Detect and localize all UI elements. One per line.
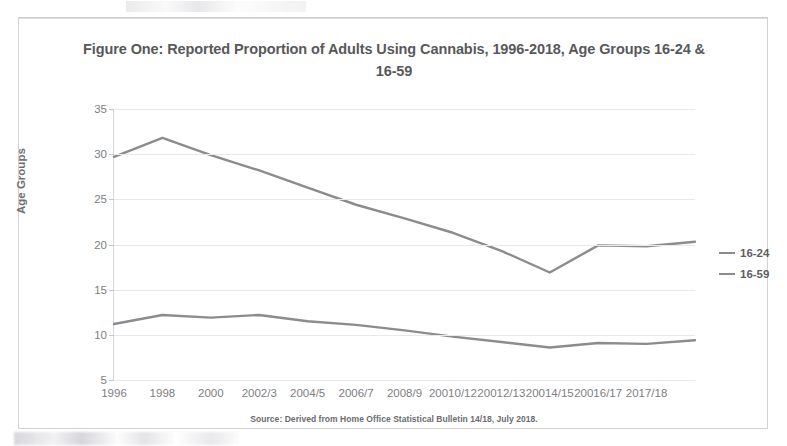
legend-line-icon	[719, 252, 735, 254]
gridline-15	[114, 290, 695, 291]
y-tick-label-5: 5	[77, 374, 107, 386]
y-tick-label-30: 30	[77, 148, 107, 160]
y-axis-tick-20	[109, 245, 114, 246]
gridline-35	[114, 109, 695, 110]
x-tick-label-3: 2002/3	[242, 387, 277, 399]
gridline-20	[114, 245, 695, 246]
series-line-16-24	[114, 138, 695, 273]
x-tick-label-5: 2006/7	[338, 387, 373, 399]
x-tick-label-10: 20016/17	[574, 387, 622, 399]
x-tick-label-0: 1996	[101, 387, 127, 399]
legend-label: 16-24	[740, 247, 769, 259]
legend-line-icon	[719, 273, 735, 275]
legend-label: 16-59	[740, 268, 769, 280]
gridline-30	[114, 154, 695, 155]
legend-item-16-59[interactable]: 16-59	[719, 263, 785, 284]
scan-artifact-top	[126, 1, 306, 12]
y-axis-tick-25	[109, 199, 114, 200]
y-axis-title: Age Groups	[15, 148, 27, 214]
y-tick-label-10: 10	[77, 329, 107, 341]
y-axis-tick-10	[109, 335, 114, 336]
chart-title: Figure One: Reported Proportion of Adult…	[79, 38, 709, 82]
source-caption: Source: Derived from Home Office Statist…	[79, 414, 709, 424]
x-tick-label-4: 2004/5	[290, 387, 325, 399]
y-axis-tick-30	[109, 154, 114, 155]
y-axis-tick-15	[109, 290, 114, 291]
scan-artifact-bottom	[14, 432, 239, 445]
x-tick-label-2: 2000	[198, 387, 224, 399]
plot-area	[114, 109, 695, 380]
x-tick-label-9: 20014/15	[526, 387, 574, 399]
x-tick-label-8: 20012/13	[477, 387, 525, 399]
y-axis-tick-5	[109, 380, 114, 381]
series-line-16-59	[114, 315, 695, 348]
y-tick-label-15: 15	[77, 284, 107, 296]
x-tick-label-6: 2008/9	[387, 387, 422, 399]
figure-container: Figure One: Reported Proportion of Adult…	[18, 17, 768, 429]
chart-legend: 16-2416-59	[719, 242, 785, 284]
y-tick-label-20: 20	[77, 239, 107, 251]
gridline-25	[114, 199, 695, 200]
legend-item-16-24[interactable]: 16-24	[719, 242, 785, 263]
y-axis-tick-35	[109, 109, 114, 110]
y-tick-label-35: 35	[77, 103, 107, 115]
gridline-5	[114, 380, 695, 381]
x-tick-label-1: 1998	[150, 387, 176, 399]
x-tick-label-11: 2017/18	[626, 387, 668, 399]
x-tick-label-7: 20010/12	[429, 387, 477, 399]
gridline-10	[114, 335, 695, 336]
y-axis-tick-labels: 5101520253035	[69, 109, 107, 380]
y-tick-label-25: 25	[77, 193, 107, 205]
